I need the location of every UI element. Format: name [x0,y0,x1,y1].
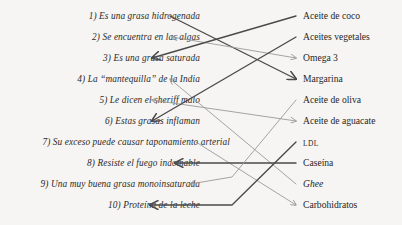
left-item-8[interactable]: 8) Resiste el fuego indomable [87,155,200,171]
right-item-7[interactable]: LDL [303,136,319,152]
left-item-7[interactable]: 7) Su exceso puede causar taponamiento a… [42,134,230,150]
left-item-1[interactable]: 1) Es una grasa hidrogenada [89,8,200,24]
left-item-9[interactable]: 9) Una muy buena grasa monoinsaturada [41,176,200,192]
left-item-5[interactable]: 5) Le dicen el sheriff malo [99,92,200,108]
connector-1-to-4 [170,16,296,79]
right-item-5[interactable]: Aceite de oliva [303,92,361,108]
left-item-10[interactable]: 10) Proteína de la leche [108,197,200,213]
right-item-9[interactable]: Ghee [303,176,323,192]
connector-7-to-10 [196,142,296,205]
right-item-8[interactable]: Caseína [303,155,333,171]
right-item-4[interactable]: Margarina [303,71,343,87]
matching-exercise-sheet: 1) Es una grasa hidrogenada 2) Se encuen… [0,0,402,225]
right-item-6[interactable]: Aceite de aguacate [303,113,375,129]
right-item-10[interactable]: Carbohidratos [303,197,357,213]
connector-10-to-7 [150,142,296,205]
left-item-2[interactable]: 2) Se encuentra en las algas [92,29,200,45]
left-item-4[interactable]: 4) La “mantequilla” de la India [77,71,200,87]
right-item-3[interactable]: Omega 3 [303,50,338,66]
left-item-6[interactable]: 6) Estas grasas inflaman [105,113,200,129]
right-item-2[interactable]: Aceites vegetales [303,29,370,45]
right-item-1[interactable]: Aceite de coco [303,8,360,24]
left-item-3[interactable]: 3) Es una grasa saturada [103,50,200,66]
